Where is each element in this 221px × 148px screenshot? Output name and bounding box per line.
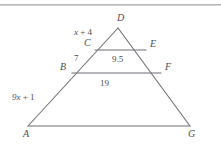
side-AD	[28, 28, 118, 126]
measure-label-AB: 9x + 1	[12, 93, 35, 102]
vertex-label-F: F	[165, 62, 171, 72]
vertex-label-A: A	[23, 129, 29, 139]
vertex-label-B: B	[60, 62, 66, 72]
measure-label-CD: x + 4	[74, 28, 92, 37]
measure-label-BF: 19	[100, 79, 109, 88]
vertex-label-C: C	[84, 38, 91, 48]
vertex-label-D: D	[117, 13, 124, 23]
measure-label-BC: 7	[74, 54, 79, 63]
vertex-label-G: G	[188, 129, 195, 139]
triangle-diagram-svg	[0, 0, 221, 148]
measure-CD-rest: + 4	[78, 27, 92, 37]
vertex-label-E: E	[150, 39, 156, 49]
geometry-figure: D C E B F A G x + 4 7 9x + 1 9.5 19	[0, 0, 221, 148]
measure-AB-rest: + 1	[21, 92, 35, 102]
measure-label-CE: 9.5	[112, 55, 123, 64]
measure-AB-variable: 9x	[12, 92, 21, 102]
